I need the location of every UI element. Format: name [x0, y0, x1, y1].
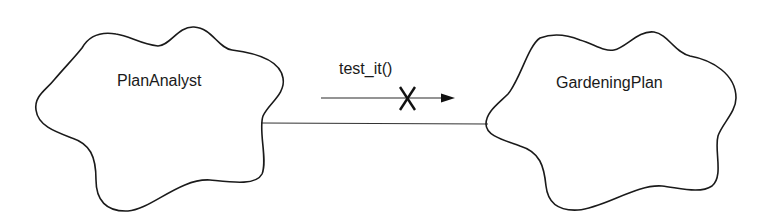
object-name-gardeningplan: GardeningPlan [556, 75, 663, 91]
object-diagram [0, 0, 768, 219]
arrowhead-icon [441, 94, 455, 103]
message-label: test_it() [339, 61, 392, 77]
object-name-plananalyst: PlanAnalyst [117, 73, 202, 89]
object-cloud-gardeningplan[interactable] [486, 32, 736, 210]
object-cloud-plananalyst[interactable] [36, 27, 284, 211]
object-link[interactable] [261, 123, 488, 124]
